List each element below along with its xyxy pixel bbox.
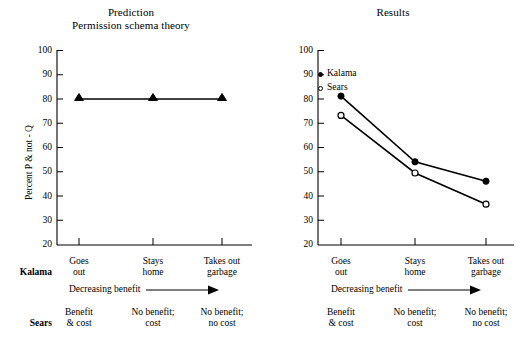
x-tick-marks (79, 238, 222, 245)
sears-category-1-line2: & cost (39, 318, 119, 329)
y-tick-label-60: 60 (287, 142, 313, 152)
sears-category-2-line1: No benefit; (113, 307, 193, 318)
row-label-kalama: Kalama (0, 267, 52, 277)
y-tick-label-40: 40 (287, 191, 313, 201)
decreasing-benefit-label: Decreasing benefit (331, 284, 402, 294)
sears-category-3-line1: No benefit; (446, 307, 524, 318)
legend-label-sears: Sears (327, 82, 348, 92)
y-tick-label-80: 80 (26, 94, 52, 104)
x-tick-marks (341, 238, 486, 245)
legend-item-kalama: Kalama (318, 68, 357, 78)
y-tick-label-90: 90 (287, 69, 313, 79)
kalama-category-3: Takes out garbage (446, 256, 524, 278)
sears-category-1-line2: & cost (301, 318, 381, 329)
sears-category-2: No benefit; cost (375, 307, 455, 329)
legend-item-sears: Sears (318, 82, 348, 92)
kalama-category-1: Goes out (301, 256, 381, 278)
legend-open-circle-icon (318, 86, 323, 91)
results-panel: Results (262, 0, 524, 347)
y-tick-label-100: 100 (287, 45, 313, 55)
decreasing-benefit-label: Decreasing benefit (69, 284, 140, 294)
kalama-category-2: Stays home (375, 256, 455, 278)
y-tick-label-50: 50 (26, 166, 52, 176)
sears-category-3-line1: No benefit; (182, 307, 262, 318)
kalama-category-2: Stays home (113, 256, 193, 278)
y-tick-label-20: 20 (26, 239, 52, 249)
sears-category-3: No benefit; no cost (446, 307, 524, 329)
kalama-category-3-line2: garbage (446, 267, 524, 278)
kalama-category-3: Takes out garbage (182, 256, 262, 278)
sears-category-3-line2: no cost (446, 318, 524, 329)
kalama-category-1-line2: out (301, 267, 381, 278)
y-tick-marks (57, 51, 63, 221)
y-tick-label-30: 30 (26, 215, 52, 225)
decreasing-benefit-arrow (408, 286, 481, 295)
kalama-category-2-line1: Stays (375, 256, 455, 267)
sears-category-1-line1: Benefit (301, 307, 381, 318)
y-tick-label-40: 40 (26, 191, 52, 201)
y-axis-label: Percent P & not - Q (24, 125, 34, 200)
decreasing-benefit-arrow (146, 286, 219, 295)
kalama-category-1-line1: Goes (39, 256, 119, 267)
y-tick-label-20: 20 (287, 239, 313, 249)
sears-category-1-line1: Benefit (39, 307, 119, 318)
sears-category-1: Benefit & cost (39, 307, 119, 329)
kalama-category-3-line1: Takes out (182, 256, 262, 267)
kalama-category-2-line1: Stays (113, 256, 193, 267)
y-tick-label-70: 70 (287, 118, 313, 128)
kalama-category-2-line2: home (113, 267, 193, 278)
sears-category-3-line2: no cost (182, 318, 262, 329)
y-tick-label-50: 50 (287, 166, 313, 176)
sears-category-1: Benefit & cost (301, 307, 381, 329)
y-tick-label-60: 60 (26, 142, 52, 152)
kalama-category-1-line1: Goes (301, 256, 381, 267)
y-tick-label-80: 80 (287, 94, 313, 104)
legend-filled-circle-icon (318, 72, 323, 77)
sears-category-2: No benefit; cost (113, 307, 193, 329)
sears-category-2-line2: cost (113, 318, 193, 329)
kalama-series-line (341, 96, 486, 181)
y-tick-label-100: 100 (26, 45, 52, 55)
y-tick-label-30: 30 (287, 215, 313, 225)
prediction-panel: Prediction Permission schema theory (0, 0, 262, 347)
y-tick-label-90: 90 (26, 69, 52, 79)
sears-category-3: No benefit; no cost (182, 307, 262, 329)
legend-label-kalama: Kalama (327, 68, 357, 78)
sears-category-2-line2: cost (375, 318, 455, 329)
kalama-category-2-line2: home (375, 267, 455, 278)
sears-category-2-line1: No benefit; (375, 307, 455, 318)
kalama-category-3-line1: Takes out (446, 256, 524, 267)
y-tick-label-70: 70 (26, 118, 52, 128)
kalama-category-3-line2: garbage (182, 267, 262, 278)
